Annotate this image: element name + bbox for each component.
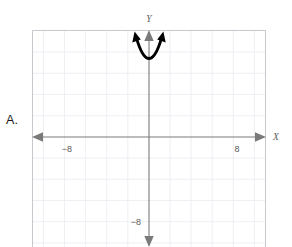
graph-figure: A. [0,0,292,247]
y-axis-label: Y [146,14,153,24]
x-axis-label: X [272,132,280,142]
x-tick-label-8: 8 [234,144,239,154]
coordinate-plane-svg: X Y −8 8 −8 [0,0,292,247]
y-tick-label-neg8: −8 [131,217,141,227]
answer-choice-label: A. [6,114,18,127]
x-tick-label-neg8: −8 [62,144,72,154]
